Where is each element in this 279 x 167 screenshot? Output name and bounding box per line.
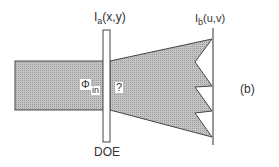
phase-in-subscript: in xyxy=(91,86,100,95)
input-plane-label: Ia(x,y) xyxy=(94,10,126,26)
diagram-canvas xyxy=(0,0,279,167)
output-plane-label: Ib(u,v) xyxy=(195,12,225,27)
doe-label: DOE xyxy=(94,145,120,159)
doe-plate xyxy=(103,30,110,142)
phase-in-symbol: Φ xyxy=(80,79,91,90)
output-beam xyxy=(110,39,212,137)
panel-label: (b) xyxy=(240,82,255,96)
unknown-phase-marker: ? xyxy=(115,82,123,93)
